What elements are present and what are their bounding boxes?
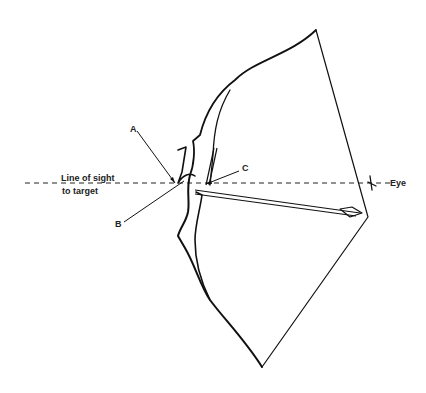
arrow-shaft-2 (195, 194, 356, 216)
label-a: A (130, 124, 137, 134)
label-line-of-sight: Line of sight (61, 173, 115, 183)
bow-riser-front (178, 175, 262, 367)
leader-b (124, 181, 184, 222)
bow-upper-limb (190, 30, 316, 175)
label-to-target: to target (62, 186, 98, 196)
label-eye: Eye (390, 178, 406, 188)
bow-diagram: Line of sight to target Eye A B C (0, 0, 426, 393)
bowstring (262, 30, 368, 367)
label-c: C (242, 163, 249, 173)
arrow-shaft (195, 190, 360, 213)
label-b: B (115, 219, 122, 229)
bow-riser-back (195, 192, 210, 300)
leader-a (137, 131, 175, 183)
